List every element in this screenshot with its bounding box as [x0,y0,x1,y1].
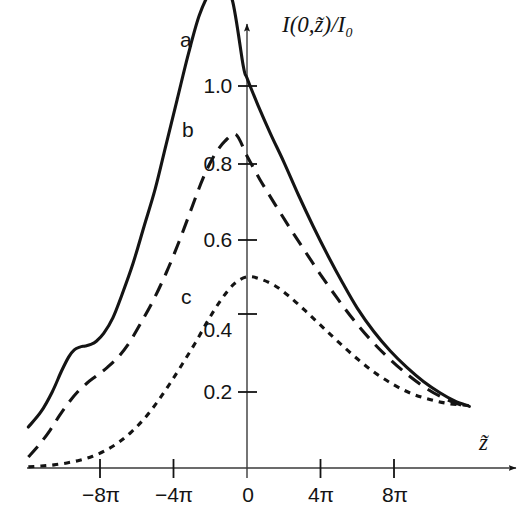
x-axis-title: z̃ [479,430,488,456]
figure-root: 1.0 0.8 0.6 0.4 0.2 −8π −4π 0 4π 8π I(0,… [0,0,531,517]
curve-b-dashed [28,134,469,457]
x-tick-label--4pi: −4π [143,483,205,507]
x-tick-label--8pi: −8π [70,483,132,507]
y-tick-label-0.6: 0.6 [170,228,232,252]
y-tick-label-0.8: 0.8 [170,152,232,176]
curve-label-a: a [180,28,192,52]
x-tick-label-0: 0 [217,483,279,507]
y-tick-label-0.2: 0.2 [170,380,232,404]
plot-canvas [0,0,531,517]
curve-c-dotted [28,277,469,467]
y-axis-title: I(0,z̃)/I₀ [282,12,353,38]
x-tick-label-8pi: 8π [364,483,426,507]
curve-a-solid [28,0,469,427]
y-tick-label-0.4: 0.4 [170,318,232,342]
x-tick-label-4pi: 4π [290,483,352,507]
curve-label-c: c [181,285,192,309]
curve-label-b: b [182,118,194,142]
y-tick-label-1.0: 1.0 [170,74,232,98]
